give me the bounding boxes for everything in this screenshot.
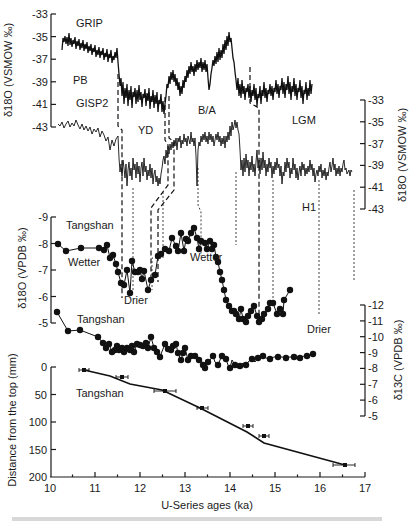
pb-label: PB (73, 74, 88, 86)
x-tick: 16 (314, 482, 326, 494)
x-tick: 13 (179, 482, 191, 494)
tangshan-depth-label: Tangshan (76, 387, 124, 399)
depth-y-axis: 0 50 100 150 200 Distance from the top (… (6, 353, 56, 486)
grip-y-axis: -33 -35 -37 -39 -41 -43 δ18O (VSMOW ‰) (2, 8, 56, 133)
grip-axis-label: δ18O (VSMOW ‰) (2, 23, 14, 117)
d13c-tick: -6 (368, 394, 378, 406)
tangshan-d18o-markers (55, 225, 293, 325)
d13c-tick: -11 (368, 315, 383, 327)
gisp2-y-axis: -33 -35 -37 -39 -41 -43 δ18O (VSMOW ‰) (360, 94, 408, 215)
gisp2-tick: -43 (368, 203, 384, 215)
tangshan-d18o-y-axis: -9 -8 -7 -6 -5 δ18O (VPDB ‰) (16, 211, 56, 329)
x-axis: 10 11 12 13 14 15 16 17 U-Series ages (k… (44, 472, 371, 511)
grip-tick: -43 (32, 121, 48, 133)
gisp2-tick: -37 (368, 138, 384, 150)
d18o-tick: -5 (38, 317, 48, 329)
wetter-label-2: Wetter (190, 251, 223, 263)
depth-tick: 100 (29, 416, 47, 428)
x-tick: 11 (89, 482, 100, 494)
gisp2-tick: -35 (368, 116, 384, 128)
d13c-axis-label: δ13C (VPDB ‰) (392, 320, 404, 401)
grip-tick: -41 (32, 98, 48, 110)
d18o-tick: -6 (38, 291, 48, 303)
gisp2-axis-label: δ18O (VSMOW ‰) (396, 108, 408, 202)
d13c-tick: -5 (368, 410, 378, 422)
d18o-tick: -8 (38, 238, 48, 250)
d13c-tick: -10 (368, 331, 384, 343)
tangshan-d13c-y-axis: -12 -11 -10 -9 -8 -7 -6 -5 δ13C (VPDB ‰) (360, 299, 404, 422)
tangshan-d13c-panel: -12 -11 -10 -9 -8 -7 -6 -5 δ13C (VPDB ‰)… (54, 299, 404, 422)
d13c-tick: -8 (368, 362, 378, 374)
lgm-label: LGM (292, 114, 316, 126)
ba-label: B/A (198, 104, 216, 116)
d18o-axis-label: δ18O (VPDB ‰) (16, 227, 28, 308)
x-tick: 10 (44, 482, 56, 494)
grip-label: GRIP (76, 17, 103, 29)
depth-tick: 150 (29, 444, 47, 456)
d13c-tick: -12 (368, 299, 384, 311)
gisp2-label: GISP2 (76, 97, 108, 109)
gisp2-tick: -39 (368, 159, 384, 171)
gisp2-panel: -33 -35 -37 -39 -41 -43 δ18O (VSMOW ‰) H… (58, 94, 408, 215)
drier-label-1: Drier (124, 294, 148, 306)
grip-tick: -39 (32, 76, 48, 88)
caption-fragment (12, 517, 382, 521)
d18o-tick: -9 (38, 211, 48, 223)
grip-tick: -37 (32, 53, 48, 65)
depth-panel: 0 50 100 150 200 Distance from the top (… (6, 353, 355, 486)
x-tick: 17 (359, 482, 371, 494)
grip-tick: -35 (32, 31, 48, 43)
depth-tick: 50 (35, 389, 47, 401)
depth-model-line (84, 370, 345, 465)
d18o-tick: -7 (38, 264, 48, 276)
gisp2-tick: -41 (368, 181, 384, 193)
d13c-tick: -7 (368, 378, 378, 390)
h1-label: H1 (302, 201, 316, 213)
depth-axis-label: Distance from the top (mm) (6, 353, 18, 486)
tangshan-d18o-label: Tangshan (66, 219, 114, 231)
drier-label-2: Drier (307, 323, 331, 335)
grip-tick: -33 (32, 8, 48, 20)
x-tick: 15 (269, 482, 281, 494)
gisp2-tick: -33 (368, 94, 384, 106)
tangshan-d13c-label: Tangshan (77, 313, 125, 325)
yd-label: YD (138, 124, 153, 136)
depth-markers (82, 368, 347, 467)
gisp2-series (58, 120, 352, 186)
wetter-label-1: Wetter (68, 256, 101, 268)
grip-panel: -33 -35 -37 -39 -41 -43 δ18O (VSMOW ‰) G… (2, 8, 316, 136)
paleoclimate-figure: -33 -35 -37 -39 -41 -43 δ18O (VSMOW ‰) G… (0, 0, 417, 521)
x-axis-label: U-Series ages (ka) (161, 499, 253, 511)
x-tick: 12 (134, 482, 146, 494)
x-tick: 14 (224, 482, 236, 494)
tangshan-d18o-panel: -9 -8 -7 -6 -5 δ18O (VPDB ‰) Tangshan We… (16, 211, 331, 335)
depth-tick: 0 (41, 361, 47, 373)
d13c-tick: -9 (368, 347, 378, 359)
